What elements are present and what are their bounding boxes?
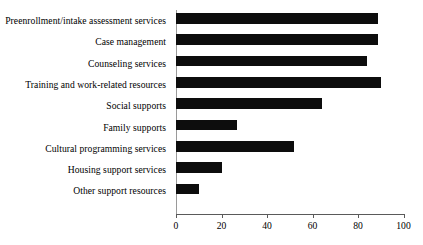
- bar-row: [176, 138, 404, 159]
- bar-housing-support-services: [176, 162, 222, 173]
- category-label: Counseling services: [88, 58, 166, 69]
- bar-preenrollment-intake-assessment-services: [176, 13, 378, 24]
- x-axis-tick-mark: [176, 214, 177, 218]
- x-axis-tick-label: 80: [353, 220, 363, 231]
- bar-social-supports: [176, 98, 322, 109]
- x-axis-tick-mark: [404, 214, 405, 218]
- category-label: Training and work-related resources: [25, 79, 166, 90]
- bar-row: [176, 159, 404, 180]
- x-axis-tick-mark: [222, 214, 223, 218]
- x-axis-tick-label: 60: [308, 220, 318, 231]
- category-axis-labels: Preenrollment/intake assessment services…: [0, 10, 172, 213]
- bar-counseling-services: [176, 56, 367, 67]
- bar-row: [176, 53, 404, 74]
- category-label: Cultural programming services: [45, 143, 166, 154]
- bar-row: [176, 95, 404, 116]
- bar-cultural-programming-services: [176, 141, 294, 152]
- category-label: Other support resources: [73, 185, 166, 196]
- bar-row: [176, 74, 404, 95]
- bar-other-support-resources: [176, 184, 199, 195]
- x-axis-tick-mark: [358, 214, 359, 218]
- x-axis-line: [176, 214, 404, 215]
- bar-row: [176, 180, 404, 201]
- bar-row: [176, 10, 404, 31]
- x-axis-tick-label: 100: [396, 220, 410, 231]
- bar-case-management: [176, 34, 378, 45]
- x-axis-tick-label: 20: [217, 220, 227, 231]
- category-label: Family supports: [103, 122, 166, 133]
- bar-row: [176, 31, 404, 52]
- x-axis-tick-label: 40: [262, 220, 272, 231]
- x-axis-tick-mark: [267, 214, 268, 218]
- category-label: Housing support services: [68, 164, 166, 175]
- category-label: Preenrollment/intake assessment services: [5, 15, 166, 26]
- x-axis-tick-label: 0: [174, 220, 179, 231]
- bar-family-supports: [176, 120, 237, 131]
- bar-training-and-work-related-resources: [176, 77, 381, 88]
- bar-row: [176, 117, 404, 138]
- x-axis-tick-mark: [313, 214, 314, 218]
- category-label: Social supports: [106, 100, 166, 111]
- bar-chart: Preenrollment/intake assessment services…: [0, 0, 423, 245]
- category-label: Case management: [95, 36, 166, 47]
- plot-area: [176, 10, 404, 213]
